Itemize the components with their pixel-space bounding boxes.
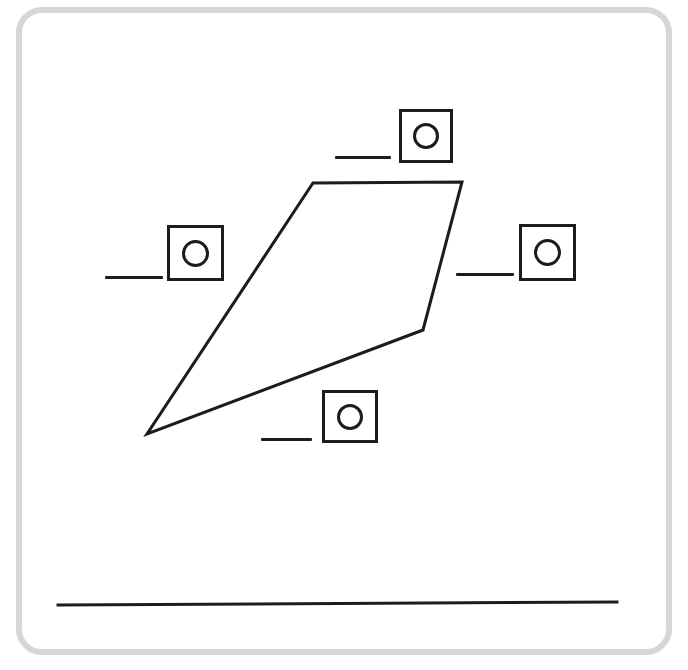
answer-baseline: [58, 602, 617, 605]
blank-dash-icon-left[interactable]: [105, 276, 163, 279]
circle-marker-icon-top: [413, 123, 439, 149]
blank-dash-icon-bottom[interactable]: [261, 438, 312, 441]
quadrilateral-shape: [147, 182, 462, 434]
answer-box-right[interactable]: [519, 224, 576, 281]
answer-box-top[interactable]: [399, 109, 453, 163]
blank-dash-icon-right[interactable]: [456, 273, 514, 276]
answer-box-left[interactable]: [167, 225, 224, 281]
blank-dash-icon-top[interactable]: [335, 156, 391, 159]
answer-box-bottom[interactable]: [322, 390, 378, 443]
figure-canvas: [0, 0, 688, 670]
circle-marker-icon-right: [534, 239, 561, 266]
circle-marker-icon-left: [182, 240, 209, 267]
worksheet-page: [0, 0, 688, 670]
circle-marker-icon-bottom: [337, 404, 363, 430]
